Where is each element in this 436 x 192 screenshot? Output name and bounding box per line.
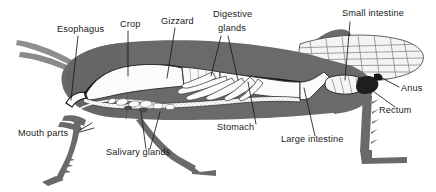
antennae-group [16, 40, 73, 73]
label-salivary-glands: Salivary glands [106, 147, 171, 157]
label-crop: Crop [120, 19, 141, 29]
label-anus: Anus [401, 83, 423, 93]
label-gizzard: Gizzard [161, 16, 194, 26]
label-small-intestine: Small intestine [342, 8, 404, 18]
label-large-intestine: Large intestine [281, 134, 344, 144]
label-mouth-parts: Mouth parts [18, 128, 68, 138]
hind-leg-spines-icon [371, 99, 379, 144]
label-esophagus: Esophagus [57, 24, 105, 34]
grasshopper-digestive-diagram: Esophagus Crop Gizzard Digestive glands … [0, 0, 436, 192]
label-rectum: Rectum [379, 105, 412, 115]
label-digestive: Digestive [213, 9, 252, 19]
label-stomach: Stomach [217, 122, 254, 132]
label-glands: glands [218, 23, 246, 33]
midleg-icon [136, 118, 196, 172]
hind-tarsus-icon [360, 150, 407, 164]
diagram-canvas: Esophagus Crop Gizzard Digestive glands … [0, 0, 436, 192]
midleg-tarsus-icon [192, 166, 216, 176]
